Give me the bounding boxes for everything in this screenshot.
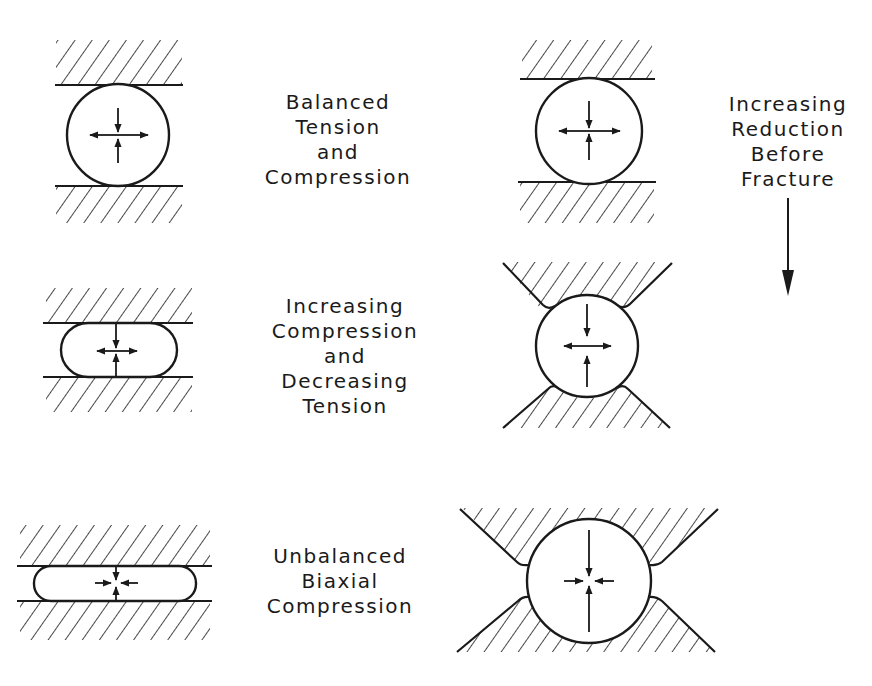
label-line: Tension — [248, 115, 428, 140]
label-line: Compression — [255, 319, 435, 344]
diagram-canvas: Balanced Tension and Compression Increas… — [0, 0, 872, 686]
specimen-thin-capsule — [34, 566, 196, 601]
label-line: Compression — [250, 594, 430, 619]
panel-groove-2 — [503, 262, 672, 428]
lower-platen-hatch — [46, 378, 192, 412]
panel-flat-3 — [17, 525, 212, 640]
lower-platen-hatch — [56, 187, 182, 223]
label-line: Fracture — [718, 167, 858, 192]
upper-platen-hatch — [522, 40, 652, 78]
upper-platen-hatch — [56, 40, 182, 84]
label-line: Tension — [255, 394, 435, 419]
panel-groove-3 — [457, 508, 718, 652]
label-line: Reduction — [718, 117, 858, 142]
label-line: Unbalanced — [250, 544, 430, 569]
panel-flat-2 — [43, 288, 193, 412]
arrow-down-icon — [782, 270, 794, 296]
trend-arrow — [782, 198, 794, 296]
panel-flat-1 — [55, 40, 183, 223]
lower-platen-hatch — [520, 183, 654, 223]
label-unbalanced-biaxial-compression: Unbalanced Biaxial Compression — [250, 544, 430, 619]
upper-platen-hatch — [20, 525, 210, 565]
label-line: and — [248, 140, 428, 165]
label-line: Balanced — [248, 90, 428, 115]
upper-platen-hatch — [46, 288, 192, 322]
label-line: Before — [718, 142, 858, 167]
label-balanced-tension-compression: Balanced Tension and Compression — [248, 90, 428, 190]
label-increasing-compression-decreasing-tension: Increasing Compression and Decreasing Te… — [255, 294, 435, 419]
label-line: Decreasing — [255, 369, 435, 394]
lower-platen-hatch — [20, 602, 210, 640]
label-line: Increasing — [718, 92, 858, 117]
specimen-capsule — [61, 323, 177, 377]
panel-groove-1 — [518, 40, 656, 223]
label-line: Biaxial — [250, 569, 430, 594]
label-increasing-reduction-before-fracture: Increasing Reduction Before Fracture — [718, 92, 858, 192]
label-line: and — [255, 344, 435, 369]
label-line: Increasing — [255, 294, 435, 319]
label-line: Compression — [248, 165, 428, 190]
